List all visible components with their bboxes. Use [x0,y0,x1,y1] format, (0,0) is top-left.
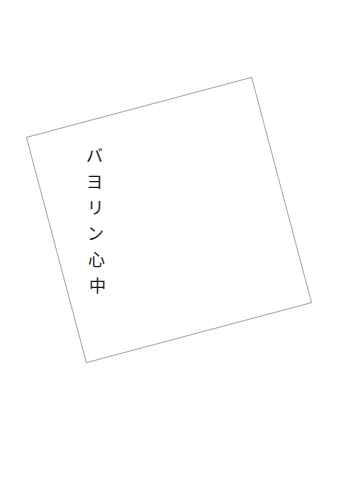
page-canvas: バ ヨ リ ン 心 中 [0,0,338,482]
book-cover-card [26,77,312,363]
